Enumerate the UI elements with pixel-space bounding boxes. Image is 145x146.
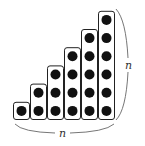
dot (68, 106, 78, 116)
dot (102, 70, 112, 80)
dot (102, 88, 112, 98)
dot (51, 106, 61, 116)
dot (34, 88, 44, 98)
side-n-label: n (125, 59, 132, 72)
dot (102, 15, 112, 25)
dot (102, 33, 112, 43)
dot (68, 51, 78, 61)
dot (85, 106, 95, 116)
dot (85, 51, 95, 61)
staircase-diagram: n n (0, 0, 145, 146)
dot (68, 70, 78, 80)
dot (85, 88, 95, 98)
dot (17, 106, 27, 116)
dot-columns (14, 11, 115, 119)
dot (85, 70, 95, 80)
dot (51, 70, 61, 80)
bottom-n-label: n (59, 127, 66, 140)
dot (34, 106, 44, 116)
dot (51, 88, 61, 98)
dot-column (99, 11, 115, 119)
dot (102, 106, 112, 116)
dot (68, 88, 78, 98)
dot (85, 33, 95, 43)
dot (102, 51, 112, 61)
